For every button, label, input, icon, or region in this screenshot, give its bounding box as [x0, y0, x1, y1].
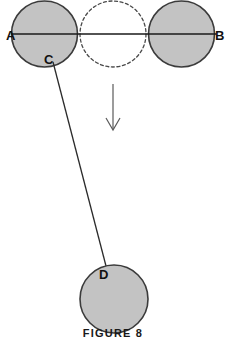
label-b: B [215, 28, 224, 43]
figure-caption: FIGURE 8 [83, 327, 143, 339]
label-d: D [99, 267, 108, 282]
downward-motion-arrow [106, 84, 120, 130]
sphere-d [80, 265, 148, 333]
label-a: A [6, 28, 16, 43]
figure-8-diagram: A B C D FIGURE 8 [0, 0, 226, 342]
label-c: C [44, 52, 54, 67]
figure-container: A B C D FIGURE 8 [0, 0, 226, 342]
connector-line-c-d [53, 62, 106, 266]
